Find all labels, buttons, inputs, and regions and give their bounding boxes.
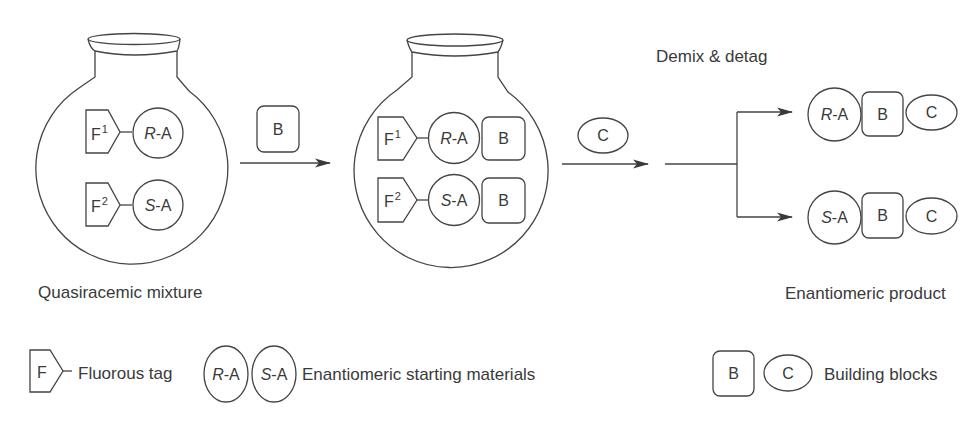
fluorous-tag-legend-label: Fluorous tag (78, 364, 173, 383)
s-enantiomer-label: S-A (261, 366, 288, 383)
step3-demix-detag: Demix & detag (656, 47, 792, 217)
reagent-c-label: C (597, 127, 609, 144)
fluorous-tag-symbol: F (37, 364, 47, 381)
tagged-substrate-s: F2 S-A (86, 180, 183, 230)
starting-materials-legend-label: Enantiomeric starting materials (302, 365, 535, 384)
building-block-b-label: B (498, 192, 509, 209)
starting-material-label: S-A (441, 192, 468, 209)
flask-rim-lower (407, 40, 503, 56)
r-enantiomer-label: R-A (212, 366, 240, 383)
flask-quasiracemic-mixture: F1 R-A F2 S-A Quasiracemic mixture (36, 34, 228, 303)
flask-after-coupling-b: F1 R-A B F2 S-A B (354, 34, 548, 268)
tagged-intermediate-s: F2 S-A B (378, 175, 525, 226)
building-block-c-symbol: C (782, 365, 794, 382)
starting-material-label: R-A (440, 130, 468, 147)
reagent-b-label: B (273, 121, 284, 138)
flask-rim (407, 34, 503, 46)
products-caption: Enantiomeric product (785, 284, 946, 303)
legend-building-blocks: B C Building blocks (713, 351, 937, 396)
flask-rim (88, 34, 180, 45)
starting-material-label: R-A (144, 125, 172, 142)
flask1-caption: Quasiracemic mixture (38, 283, 202, 302)
product-core-label: S-A (821, 209, 848, 226)
step2-add-building-block-c: C (562, 118, 648, 164)
flask-body (36, 51, 228, 264)
tagged-substrate-r: F1 R-A (86, 108, 183, 158)
building-block-c-label: C (926, 104, 938, 121)
building-block-c-label: C (926, 208, 938, 225)
legend-fluorous-tag: F Fluorous tag (30, 350, 173, 392)
building-block-b-label: B (498, 130, 509, 147)
product-core-label: R-A (821, 106, 849, 123)
product-r: R-A B C (808, 88, 957, 141)
product-s: S-A B C (808, 191, 957, 244)
flask-rim-lower (88, 39, 180, 55)
building-block-b-label: B (877, 207, 888, 224)
legend: F Fluorous tag R-A S-A Enantiomeric star… (30, 346, 937, 402)
fluorous-mixture-synthesis-diagram: F1 R-A F2 S-A Quasiracemic mixture B F1 (0, 0, 977, 434)
starting-material-label: S-A (145, 197, 172, 214)
building-blocks-legend-label: Building blocks (824, 365, 937, 384)
demix-detag-label: Demix & detag (656, 47, 768, 66)
legend-starting-materials: R-A S-A Enantiomeric starting materials (204, 346, 535, 402)
step1-add-building-block-b: B (240, 106, 330, 163)
enantiomeric-products: R-A B C S-A B C Enantiomeric product (785, 88, 957, 303)
building-block-b-label: B (877, 106, 888, 123)
building-block-b-symbol: B (728, 365, 739, 382)
tagged-intermediate-r: F1 R-A B (378, 113, 525, 164)
